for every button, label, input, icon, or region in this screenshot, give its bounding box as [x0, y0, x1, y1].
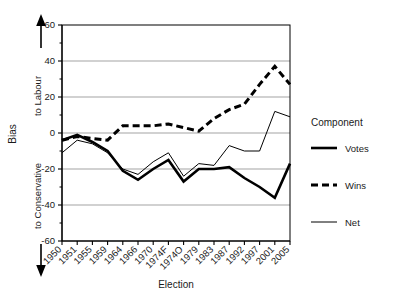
- y-tick-label: 40: [44, 55, 55, 66]
- legend-title: Component: [311, 117, 363, 128]
- legend-label-net: Net: [345, 217, 360, 228]
- chart-figure: -60-40-200204060 19501951195519591964196…: [0, 0, 398, 296]
- y-axis-title: Bias: [7, 124, 18, 143]
- y-tick-label: 60: [44, 19, 55, 30]
- legend-label-votes: Votes: [345, 143, 369, 154]
- x-axis-title: Election: [158, 279, 194, 290]
- y-axis-ticks: -60-40-200204060: [41, 19, 62, 246]
- y-tick-label: -20: [41, 163, 55, 174]
- legend-label-wins: Wins: [345, 180, 366, 191]
- y-axis-up-direction-label: to Labour: [32, 76, 43, 116]
- legend: Component VotesWinsNet: [311, 117, 369, 228]
- y-tick-label: 0: [50, 127, 55, 138]
- legend-entries: VotesWinsNet: [311, 143, 369, 228]
- y-tick-label: -40: [41, 199, 55, 210]
- x-axis-ticks: 19501951195519591964196619701974F1974O19…: [41, 241, 292, 272]
- x-tick-label: 2005: [269, 244, 292, 267]
- y-axis-down-direction-label: to Conservative: [32, 163, 43, 229]
- y-tick-label: 20: [44, 91, 55, 102]
- y-tick-label: -60: [41, 235, 55, 246]
- bias-by-election-line-chart: -60-40-200204060 19501951195519591964196…: [0, 0, 398, 296]
